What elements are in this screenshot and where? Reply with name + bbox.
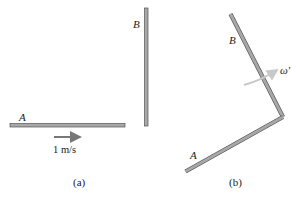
rod-b-label: B xyxy=(229,34,236,46)
rod-b xyxy=(145,8,149,126)
caption-b: (b) xyxy=(229,176,242,189)
rod-a-label: A xyxy=(18,111,26,123)
angular-velocity-label: ω′ xyxy=(280,64,291,76)
velocity-label: 1 m/s xyxy=(53,144,76,155)
diagram-canvas: A B 1 m/s (a) B A ω′ (b) xyxy=(0,0,300,200)
caption-a: (a) xyxy=(73,176,86,189)
panel-b: B A ω′ (b) xyxy=(186,14,291,189)
panel-a: A B 1 m/s (a) xyxy=(10,8,148,189)
rod-a-label: A xyxy=(189,149,197,161)
rod-a xyxy=(10,124,125,128)
rod-b-label: B xyxy=(133,18,140,30)
